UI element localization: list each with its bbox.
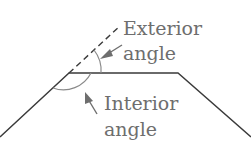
angle-diagram: Exterior angle Interior angle — [0, 0, 251, 152]
interior-label-line1: Interior — [104, 94, 178, 113]
exterior-label-line2: angle — [123, 44, 176, 63]
side-extension-dashed — [69, 26, 120, 73]
interior-angle-arc — [53, 73, 91, 90]
interior-arrow-icon — [85, 92, 97, 114]
exterior-angle-arc — [94, 50, 101, 73]
interior-label-line2: angle — [104, 120, 157, 139]
exterior-label-line1: Exterior — [123, 19, 202, 38]
exterior-arrow-icon — [100, 45, 122, 59]
